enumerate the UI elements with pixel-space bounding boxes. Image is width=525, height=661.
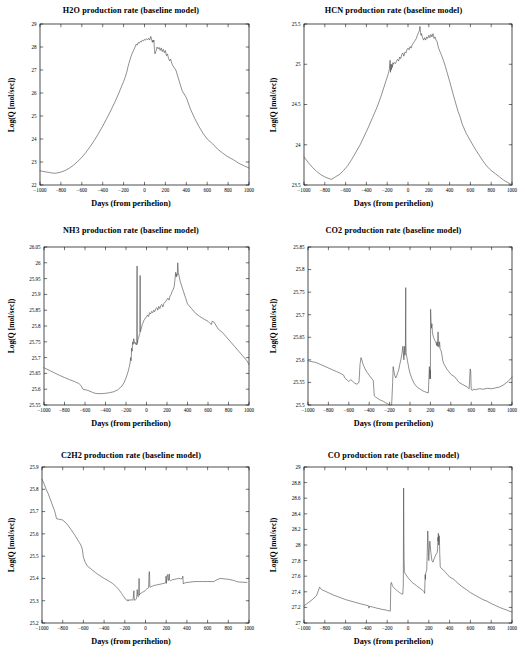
svg-text:−800: −800: [320, 625, 331, 631]
y-axis-label-co2: Log(Q [mol/sec]): [269, 299, 278, 354]
data-series-c2h2: [42, 479, 247, 600]
svg-text:400: 400: [446, 187, 454, 193]
svg-text:200: 200: [162, 625, 170, 631]
svg-text:−800: −800: [56, 187, 67, 193]
svg-text:25.6: 25.6: [296, 357, 305, 363]
svg-text:600: 600: [467, 407, 475, 413]
svg-text:25.4: 25.4: [30, 575, 39, 581]
svg-text:23.5: 23.5: [292, 182, 301, 188]
svg-text:25.95: 25.95: [29, 276, 41, 282]
panel-c2h2: C2H2 production rate (baseline model) Lo…: [0, 445, 262, 661]
plot-c2h2: −1000−800−600−400−2000200400600800100025…: [0, 445, 262, 661]
svg-text:25.3: 25.3: [30, 598, 39, 604]
y-axis-label-h2o: Log(Q [mol/sec]): [7, 77, 16, 132]
svg-text:200: 200: [427, 407, 435, 413]
svg-text:−400: −400: [100, 407, 111, 413]
svg-text:1000: 1000: [507, 407, 518, 413]
svg-text:−400: −400: [361, 625, 372, 631]
svg-text:800: 800: [487, 625, 495, 631]
panel-title-c2h2: C2H2 production rate (baseline model): [0, 451, 262, 460]
svg-text:29: 29: [296, 464, 302, 470]
svg-text:200: 200: [163, 407, 171, 413]
panel-title-h2o: H2O production rate (baseline model): [0, 6, 262, 15]
svg-text:800: 800: [224, 625, 232, 631]
svg-text:23: 23: [32, 159, 38, 165]
svg-text:800: 800: [225, 407, 233, 413]
x-axis-label-co: Days (from perihelion): [262, 637, 525, 646]
svg-text:25.8: 25.8: [32, 323, 41, 329]
svg-text:0: 0: [144, 625, 147, 631]
plot-co: −1000−800−600−400−2000200400600800100027…: [262, 445, 525, 661]
svg-text:−600: −600: [77, 187, 88, 193]
svg-text:25.65: 25.65: [293, 334, 305, 340]
svg-text:400: 400: [183, 625, 191, 631]
svg-text:27: 27: [32, 67, 38, 73]
svg-text:25.2: 25.2: [30, 620, 39, 626]
panel-co2: CO2 production rate (baseline model) Log…: [262, 220, 525, 445]
svg-text:800: 800: [224, 187, 232, 193]
x-axis-label-h2o: Days (from perihelion): [0, 199, 262, 208]
svg-text:0: 0: [409, 407, 412, 413]
svg-text:600: 600: [204, 625, 212, 631]
svg-text:27.8: 27.8: [292, 558, 301, 564]
svg-text:−600: −600: [340, 625, 351, 631]
panel-co: CO production rate (baseline model) Log(…: [262, 445, 525, 661]
panel-title-co2: CO2 production rate (baseline model): [262, 226, 525, 235]
svg-text:26.05: 26.05: [29, 244, 41, 250]
svg-text:26: 26: [32, 90, 38, 96]
svg-text:−600: −600: [344, 407, 355, 413]
svg-text:200: 200: [425, 187, 433, 193]
svg-text:1000: 1000: [244, 187, 255, 193]
svg-text:25.55: 25.55: [293, 379, 305, 385]
svg-text:28.2: 28.2: [292, 526, 301, 532]
svg-text:400: 400: [184, 407, 192, 413]
svg-text:28.4: 28.4: [292, 511, 301, 517]
svg-text:−600: −600: [340, 187, 351, 193]
svg-text:25: 25: [296, 61, 302, 67]
svg-text:22: 22: [32, 182, 38, 188]
svg-text:1000: 1000: [507, 187, 518, 193]
svg-text:25.9: 25.9: [30, 464, 39, 470]
svg-text:27.6: 27.6: [292, 573, 301, 579]
svg-text:−200: −200: [121, 407, 132, 413]
svg-text:−800: −800: [59, 407, 70, 413]
svg-text:29: 29: [32, 21, 38, 27]
panel-title-co: CO production rate (baseline model): [262, 451, 525, 460]
svg-text:28.6: 28.6: [292, 495, 301, 501]
panel-hcn: HCN production rate (baseline model) Log…: [262, 0, 525, 220]
svg-text:−1000: −1000: [301, 407, 315, 413]
svg-text:25: 25: [32, 113, 38, 119]
svg-text:25.75: 25.75: [29, 339, 41, 345]
svg-text:600: 600: [203, 187, 211, 193]
svg-text:25.9: 25.9: [32, 291, 41, 297]
plot-hcn: −1000−800−600−400−2000200400600800100023…: [262, 0, 525, 220]
svg-text:−400: −400: [97, 187, 108, 193]
panel-title-nh3: NH3 production rate (baseline model): [0, 226, 262, 235]
svg-text:1000: 1000: [507, 625, 518, 631]
svg-text:−800: −800: [323, 407, 334, 413]
svg-text:25.6: 25.6: [32, 386, 41, 392]
svg-text:27.2: 27.2: [292, 604, 301, 610]
data-series-co: [304, 488, 512, 612]
svg-text:−1000: −1000: [297, 187, 311, 193]
svg-text:−400: −400: [364, 407, 375, 413]
svg-text:25.85: 25.85: [293, 244, 305, 250]
svg-text:200: 200: [425, 625, 433, 631]
svg-text:25.7: 25.7: [30, 508, 39, 514]
svg-text:−1000: −1000: [35, 625, 49, 631]
svg-text:−200: −200: [118, 187, 129, 193]
svg-text:800: 800: [488, 407, 496, 413]
y-axis-label-hcn: Log(Q [mol/sec]): [269, 77, 278, 132]
svg-text:24: 24: [296, 142, 302, 148]
svg-text:−200: −200: [384, 407, 395, 413]
x-axis-label-nh3: Days (from perihelion): [0, 419, 262, 428]
plot-h2o: −1000−800−600−400−2000200400600800100022…: [0, 0, 262, 220]
svg-text:−600: −600: [78, 625, 89, 631]
svg-text:0: 0: [143, 187, 146, 193]
svg-text:24.5: 24.5: [292, 101, 301, 107]
data-series-co2: [308, 288, 512, 405]
svg-text:25.8: 25.8: [30, 486, 39, 492]
svg-text:1000: 1000: [244, 625, 255, 631]
svg-text:27: 27: [296, 620, 302, 626]
svg-text:−400: −400: [361, 187, 372, 193]
